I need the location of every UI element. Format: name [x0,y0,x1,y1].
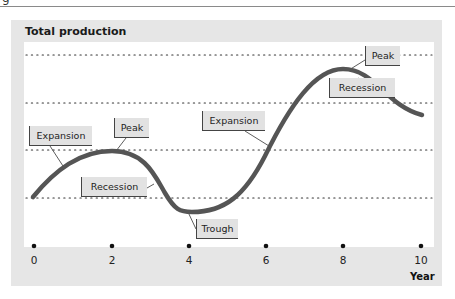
x-tick-2: 2 [109,254,116,266]
x-tick-0: 0 [31,254,38,266]
label-recession-1: Recession [81,177,147,197]
x-tick-8: 8 [340,254,347,266]
label-expansion-1: Expansion [29,126,92,146]
x-axis-ticks [32,244,424,249]
label-peak-2: Peak [365,46,400,66]
x-tick-6: 6 [263,254,270,266]
leader-lines [50,60,372,229]
label-expansion-2: Expansion [202,111,265,131]
label-trough: Trough [196,219,238,239]
x-axis-title: Year [410,271,435,282]
business-cycle-chart [0,0,455,299]
label-recession-2: Recession [329,78,395,98]
x-tick-10: 10 [414,254,427,266]
label-peak-1: Peak [114,118,149,138]
x-tick-4: 4 [186,254,193,266]
